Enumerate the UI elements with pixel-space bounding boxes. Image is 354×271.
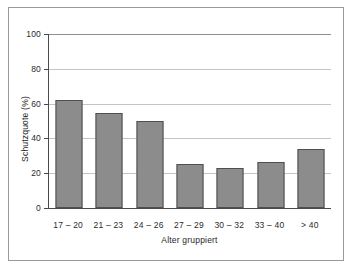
figure-frame: Schutzquote (%) 020406080100 17 – 2021 –… <box>8 7 344 261</box>
x-axis-tick-label: 33 – 40 <box>255 220 285 230</box>
y-axis-tick-mark <box>44 208 49 209</box>
bar-slot <box>89 34 129 208</box>
bar <box>56 100 83 208</box>
y-axis-tick-label: 80 <box>31 64 41 74</box>
x-axis-tick-label: 27 – 29 <box>174 220 204 230</box>
x-axis-tick-label: 21 – 23 <box>94 220 124 230</box>
y-axis-tick-label: 60 <box>31 99 41 109</box>
bar-slot <box>291 34 331 208</box>
y-axis-tick-label: 100 <box>26 29 41 39</box>
x-axis-tick-label: 30 – 32 <box>214 220 244 230</box>
bar <box>176 164 203 208</box>
y-axis-tick-label: 40 <box>31 133 41 143</box>
x-axis-tick-labels: 17 – 2021 – 2324 – 2627 – 2930 – 3233 – … <box>48 217 331 235</box>
bar-slot <box>130 34 170 208</box>
bar-slot <box>210 34 250 208</box>
x-axis-tick-label: 24 – 26 <box>134 220 164 230</box>
bar-slot <box>250 34 290 208</box>
x-axis-title: Alter gruppiert <box>48 235 331 245</box>
bar <box>136 121 163 208</box>
y-axis-tick-label: 20 <box>31 168 41 178</box>
bar <box>217 168 244 208</box>
bar-series <box>49 34 331 208</box>
x-axis-tick-label: 17 – 20 <box>53 220 83 230</box>
bar <box>297 149 324 208</box>
bar <box>96 113 123 208</box>
x-axis-tick-label: > 40 <box>301 220 319 230</box>
bar-slot <box>170 34 210 208</box>
y-axis-title: Schutzquote (%) <box>18 41 32 216</box>
plot-area: 020406080100 <box>48 34 331 209</box>
y-axis-tick-label: 0 <box>36 203 41 213</box>
bar <box>257 162 284 208</box>
y-axis-title-text: Schutzquote (%) <box>20 96 30 162</box>
bar-slot <box>49 34 89 208</box>
